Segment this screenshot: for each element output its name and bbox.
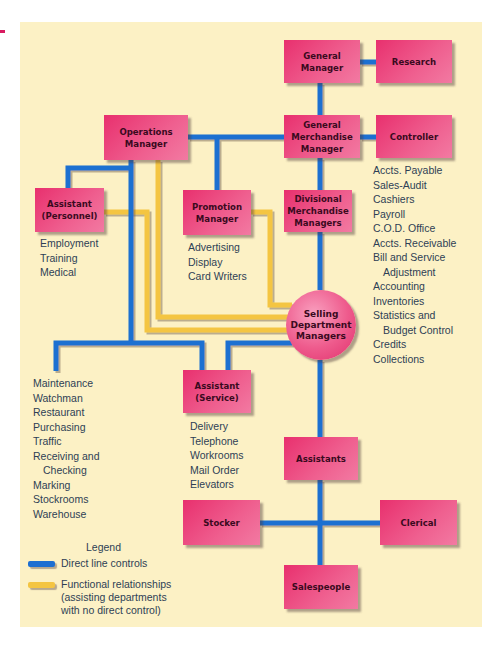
node-label: General bbox=[301, 50, 343, 62]
list-item: Checking bbox=[33, 463, 100, 478]
divisional-merchandise-managers-box: DivisionalMerchandiseManagers bbox=[284, 190, 352, 232]
list-item: Display bbox=[188, 255, 247, 270]
controller-box: Controller bbox=[376, 115, 452, 158]
list-item: Telephone bbox=[190, 434, 243, 449]
list-item: Accounting bbox=[373, 279, 456, 294]
legend-direct-line: Direct line controls bbox=[28, 557, 147, 570]
list-item: Advertising bbox=[188, 240, 247, 255]
legend-title: Legend bbox=[86, 541, 121, 553]
legend-label: Functional relationships bbox=[61, 578, 171, 591]
list-item: Training bbox=[40, 251, 98, 266]
node-label: Clerical bbox=[401, 517, 437, 529]
list-item: Stockrooms bbox=[33, 492, 100, 507]
list-item: Employment bbox=[40, 236, 98, 251]
controller-functions-list: Accts. Payable Sales-Audit Cashiers Payr… bbox=[373, 163, 456, 366]
node-label: Stocker bbox=[203, 517, 240, 529]
list-item: Card Writers bbox=[188, 269, 247, 284]
node-label: Manager bbox=[119, 138, 172, 150]
list-item: Credits bbox=[373, 337, 456, 352]
research-box: Research bbox=[376, 40, 452, 83]
assistant-service-box: Assistant(Service) bbox=[183, 370, 251, 413]
node-label: Merchandise bbox=[287, 205, 348, 217]
general-merchandise-manager-box: GeneralMerchandiseManager bbox=[284, 115, 360, 158]
list-item: Watchman bbox=[33, 391, 100, 406]
list-item: Accts. Receivable bbox=[373, 236, 456, 251]
list-item: Inventories bbox=[373, 294, 456, 309]
operations-manager-box: OperationsManager bbox=[104, 115, 188, 160]
node-label: (Service) bbox=[195, 392, 240, 404]
list-item: Accts. Payable bbox=[373, 163, 456, 178]
list-item: Maintenance bbox=[33, 376, 100, 391]
assistants-box: Assistants bbox=[284, 437, 358, 480]
node-label: Operations bbox=[119, 126, 172, 138]
list-item: Collections bbox=[373, 352, 456, 367]
node-label: Controller bbox=[390, 131, 438, 143]
list-item: Mail Order bbox=[190, 463, 243, 478]
node-label: Merchandise bbox=[291, 131, 352, 143]
node-label: Salespeople bbox=[292, 581, 350, 593]
list-item: Sales-Audit bbox=[373, 178, 456, 193]
node-label: Managers bbox=[287, 217, 348, 229]
list-item: Budget Control bbox=[373, 323, 456, 338]
promotion-functions-list: Advertising Display Card Writers bbox=[188, 240, 247, 284]
personnel-functions-list: Employment Training Medical bbox=[40, 236, 98, 280]
list-item: Warehouse bbox=[33, 507, 100, 522]
node-label: Manager bbox=[291, 143, 352, 155]
node-label: Selling bbox=[290, 309, 351, 320]
list-item: C.O.D. Office bbox=[373, 221, 456, 236]
list-item: Bill and Service bbox=[373, 250, 456, 265]
node-label: Divisional bbox=[287, 193, 348, 205]
legend-label: (assisting departments bbox=[61, 591, 171, 604]
general-manager-box: GeneralManager bbox=[284, 40, 360, 83]
stocker-box: Stocker bbox=[183, 500, 260, 545]
selling-department-managers-circle: SellingDepartmentManagers bbox=[286, 290, 356, 360]
node-label: (Personnel) bbox=[42, 210, 98, 222]
yellow-line-swatch-icon bbox=[28, 582, 55, 588]
blue-line-swatch-icon bbox=[28, 561, 55, 567]
node-label: Assistant bbox=[195, 380, 240, 392]
list-item: Statistics and bbox=[373, 308, 456, 323]
list-item: Purchasing bbox=[33, 420, 100, 435]
list-item: Delivery bbox=[190, 419, 243, 434]
promotion-manager-box: PromotionManager bbox=[183, 190, 251, 235]
list-item: Restaurant bbox=[33, 405, 100, 420]
list-item: Traffic bbox=[33, 434, 100, 449]
list-item: Payroll bbox=[373, 207, 456, 222]
list-item: Medical bbox=[40, 265, 98, 280]
legend-label: Direct line controls bbox=[61, 557, 147, 570]
assistant-personnel-box: Assistant(Personnel) bbox=[35, 188, 104, 232]
node-label: Department bbox=[290, 320, 351, 331]
node-label: Assistant bbox=[42, 198, 98, 210]
node-label: Promotion bbox=[192, 201, 242, 213]
list-item: Cashiers bbox=[373, 192, 456, 207]
clerical-box: Clerical bbox=[380, 500, 457, 545]
node-label: Research bbox=[392, 56, 436, 68]
node-label: Managers bbox=[290, 331, 351, 342]
operations-functions-list: Maintenance Watchman Restaurant Purchasi… bbox=[33, 376, 100, 521]
node-label: Manager bbox=[301, 62, 343, 74]
list-item: Receiving and bbox=[33, 449, 100, 464]
list-item: Adjustment bbox=[373, 265, 456, 280]
salespeople-box: Salespeople bbox=[284, 565, 358, 609]
legend-functional: Functional relationships (assisting depa… bbox=[28, 578, 171, 617]
legend-label: with no direct control) bbox=[61, 604, 171, 617]
list-item: Marking bbox=[33, 478, 100, 493]
list-item: Elevators bbox=[190, 477, 243, 492]
node-label: Assistants bbox=[296, 453, 346, 465]
service-functions-list: Delivery Telephone Workrooms Mail Order … bbox=[190, 419, 243, 492]
node-label: General bbox=[291, 119, 352, 131]
list-item: Workrooms bbox=[190, 448, 243, 463]
node-label: Manager bbox=[192, 213, 242, 225]
